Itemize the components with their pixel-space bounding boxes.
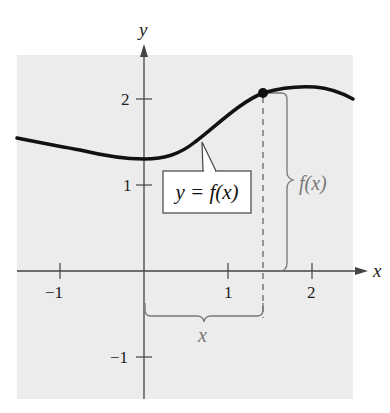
brace-fx-label: f(x) [299,172,327,195]
y-tick-label-2: 2 [121,90,130,109]
callout-text: y = f(x) [173,180,238,204]
y-axis-label: y [137,19,148,40]
highlighted-point [258,88,268,98]
x-axis-label: x [372,260,382,281]
y-tick-label-1: 1 [123,176,132,195]
callout-label: y = f(x) [173,180,238,204]
y-axis-arrow-icon [140,44,148,57]
x-tick-label-1: 1 [224,283,233,302]
function-graph: x y −1 1 2 2 1 −1 f(x) x y = f(x) [0,0,390,413]
brace-x-label: x [197,324,207,346]
x-tick-label-2: 2 [307,283,316,302]
y-tick-label-neg1: −1 [110,348,128,367]
x-axis-arrow-icon [355,267,368,275]
x-tick-label-neg1: −1 [45,283,63,302]
plot-background [17,55,353,399]
